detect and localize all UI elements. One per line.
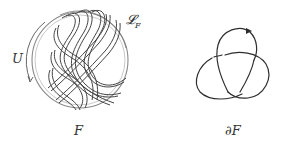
surface-disk bbox=[32, 12, 128, 108]
trefoil-knot bbox=[196, 28, 268, 99]
u-label: U bbox=[12, 52, 23, 65]
link-label-subscript: F bbox=[135, 21, 141, 30]
surface-label: F bbox=[74, 124, 83, 137]
braid-strands bbox=[48, 10, 126, 110]
figure-canvas bbox=[0, 0, 287, 149]
link-label: 𝓛F bbox=[126, 13, 141, 30]
boundary-label: ∂F bbox=[225, 124, 241, 137]
